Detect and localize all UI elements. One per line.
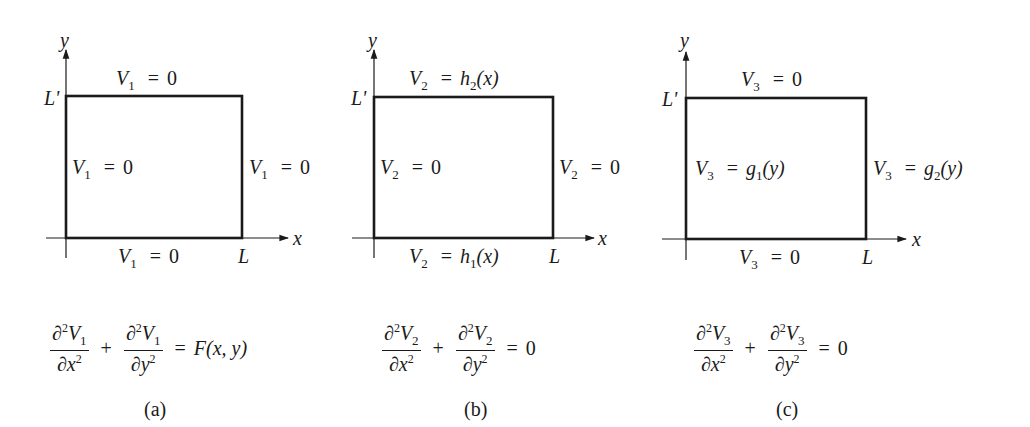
y-axis-label: y [60,30,69,50]
x-axis-label: x [912,229,921,249]
boundary-right: V3 =g2(y) [873,158,963,182]
boundary-bottom: V1 =0 [118,246,179,270]
y-axis-label: y [368,30,377,50]
panel-caption: (b) [464,398,487,421]
panel-caption: (a) [144,398,166,421]
boundary-bottom: V3 =0 [739,247,800,271]
fraction-d2v-dy2: ∂2V1 ∂y2 [124,322,163,375]
fraction-d2v-dx2: ∂2V1 ∂x2 [50,322,89,375]
boundary-top: V3 =0 [741,69,802,93]
y-axis-label: y [680,30,689,50]
boundary-left: V3 =g1(y) [695,158,785,182]
fraction-d2v-dx2: ∂2V3 ∂x2 [694,322,733,375]
boundary-top: V2 =h2(x) [409,68,499,92]
equation-rhs: 0 [526,337,536,360]
corner-label-y: L' [44,88,59,108]
corner-label-y: L' [662,89,677,109]
boundary-top: V1 =0 [116,68,177,92]
corner-label-y: L' [351,88,366,108]
x-axis-label: x [598,228,607,248]
boundary-left: V2 =0 [380,157,441,181]
panel-caption: (c) [776,398,798,421]
corner-label-x: L [549,246,560,266]
fraction-d2v-dy2: ∂2V2 ∂y2 [456,322,495,375]
fraction-d2v-dx2: ∂2V2 ∂x2 [382,322,421,375]
fraction-d2v-dy2: ∂2V3 ∂y2 [768,322,807,375]
boundary-right: V2 =0 [559,157,620,181]
equation-rhs: F(x, y) [194,337,247,360]
equation-rhs: 0 [838,337,848,360]
boundary-bottom: V2 =h1(x) [409,246,499,270]
corner-label-x: L [862,247,873,267]
x-axis-label: x [293,228,302,248]
pde-equation: ∂2V1 ∂x2 + ∂2V1 ∂y2 = F(x, y) [46,322,247,375]
corner-label-x: L [238,246,249,266]
boundary-left: V1 =0 [72,157,133,181]
boundary-right: V1 =0 [249,157,310,181]
pde-equation: ∂2V3 ∂x2 + ∂2V3 ∂y2 = 0 [690,322,848,375]
pde-equation: ∂2V2 ∂x2 + ∂2V2 ∂y2 = 0 [378,322,536,375]
